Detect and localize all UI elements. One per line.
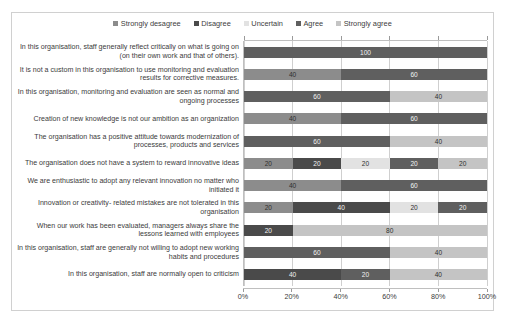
bar-segment[interactable]: 100 — [244, 47, 487, 58]
axis-tick-label: 80% — [431, 292, 445, 301]
plot-wrapper: In this organisation, staff generally re… — [12, 39, 493, 310]
bar-track: 4060 — [244, 113, 487, 124]
category-label: The organisation does not have a system … — [14, 152, 242, 174]
legend-swatch-agree — [296, 21, 301, 26]
legend-label-agree: Agree — [303, 19, 323, 28]
axis-tick-top — [292, 36, 293, 40]
axis-tick-label: 20% — [285, 292, 299, 301]
legend-swatch-strongly-agree — [336, 21, 341, 26]
category-label: In this organisation, monitoring and eva… — [14, 86, 242, 108]
bar-track: 20402020 — [244, 202, 487, 213]
bar-segment[interactable]: 40 — [390, 269, 487, 280]
bar-row: 100 — [244, 41, 487, 63]
bar-segment[interactable]: 60 — [341, 113, 487, 124]
bar-row: 4060 — [244, 63, 487, 85]
bar-track: 100 — [244, 47, 487, 58]
plot-area: 1004060604040606040202020202040602040202… — [243, 41, 487, 286]
bar-track: 4060 — [244, 69, 487, 80]
chart-container: Strongly desagree Disagree Uncertain Agr… — [11, 12, 494, 311]
bar-segment[interactable]: 40 — [390, 91, 487, 102]
chart-legend: Strongly desagree Disagree Uncertain Agr… — [12, 19, 493, 28]
legend-item-strongly-agree[interactable]: Strongly agree — [336, 19, 392, 28]
bar-track: 2020202020 — [244, 158, 487, 169]
axis-tick-top — [487, 36, 488, 40]
axis-tick-top — [389, 36, 390, 40]
bar-segment[interactable]: 60 — [244, 136, 390, 147]
category-axis: In this organisation, staff generally re… — [14, 41, 242, 286]
bar-segment[interactable]: 40 — [244, 113, 341, 124]
legend-swatch-strongly-desagree — [113, 21, 118, 26]
bar-row: 2080 — [244, 219, 487, 241]
bar-row: 4060 — [244, 175, 487, 197]
axis-tick-label: 40% — [333, 292, 347, 301]
bar-segment[interactable]: 20 — [438, 158, 487, 169]
bar-row: 6040 — [244, 86, 487, 108]
bar-row: 4060 — [244, 108, 487, 130]
category-label: In this organisation, staff are normally… — [14, 264, 242, 286]
bar-segment[interactable]: 20 — [244, 202, 293, 213]
bar-segment[interactable]: 20 — [341, 158, 390, 169]
legend-item-agree[interactable]: Agree — [296, 19, 323, 28]
bar-segment[interactable]: 20 — [390, 158, 439, 169]
bar-segment[interactable]: 60 — [341, 180, 487, 191]
bar-segment[interactable]: 40 — [390, 247, 487, 258]
bar-segment[interactable]: 40 — [244, 269, 341, 280]
legend-swatch-disagree — [194, 21, 199, 26]
bar-segment[interactable]: 20 — [341, 269, 390, 280]
bar-segment[interactable]: 60 — [341, 69, 487, 80]
category-label: It is not a custom in this organisation … — [14, 63, 242, 85]
bar-segment[interactable]: 40 — [293, 202, 390, 213]
bar-row: 402040 — [244, 264, 487, 286]
category-label: The organisation has a positive attitude… — [14, 130, 242, 152]
axis-tick-top — [341, 36, 342, 40]
bar-row: 2020202020 — [244, 152, 487, 174]
axis-tick-top — [244, 36, 245, 40]
bar-segment[interactable]: 20 — [438, 202, 487, 213]
category-label: When our work has been evaluated, manage… — [14, 219, 242, 241]
bar-segment[interactable]: 40 — [390, 136, 487, 147]
bar-segment[interactable]: 80 — [293, 225, 487, 236]
bar-track: 6040 — [244, 136, 487, 147]
bar-track: 6040 — [244, 91, 487, 102]
legend-label-strongly-desagree: Strongly desagree — [121, 19, 181, 28]
value-axis: 0%20%40%60%80%100% — [243, 288, 487, 304]
legend-label-disagree: Disagree — [201, 19, 231, 28]
axis-tick-label: 60% — [382, 292, 396, 301]
legend-item-uncertain[interactable]: Uncertain — [244, 19, 283, 28]
category-label: In this organisation, staff are generall… — [14, 241, 242, 263]
bar-row: 6040 — [244, 130, 487, 152]
axis-tick-label: 0% — [238, 292, 248, 301]
category-label: We are enthusiastic to adopt any relevan… — [14, 175, 242, 197]
bar-series-group: 1004060604040606040202020202040602040202… — [244, 41, 487, 286]
legend-item-disagree[interactable]: Disagree — [194, 19, 231, 28]
bar-track: 2080 — [244, 225, 487, 236]
category-label: Creation of new knowledge is not our amb… — [14, 108, 242, 130]
bar-segment[interactable]: 60 — [244, 247, 390, 258]
category-label: In this organisation, staff generally re… — [14, 41, 242, 63]
bar-track: 4060 — [244, 180, 487, 191]
bar-segment[interactable]: 20 — [390, 202, 439, 213]
legend-label-uncertain: Uncertain — [251, 19, 283, 28]
bar-segment[interactable]: 20 — [293, 158, 342, 169]
bar-segment[interactable]: 20 — [244, 158, 293, 169]
axis-tick-label: 100% — [478, 292, 496, 301]
category-label: Innovation or creativity- related mistak… — [14, 197, 242, 219]
bar-segment[interactable]: 60 — [244, 91, 390, 102]
axis-tick-top — [438, 36, 439, 40]
bar-track: 6040 — [244, 247, 487, 258]
legend-label-strongly-agree: Strongly agree — [344, 19, 392, 28]
value-axis-line — [243, 288, 487, 289]
bar-row: 6040 — [244, 241, 487, 263]
legend-item-strongly-desagree[interactable]: Strongly desagree — [113, 19, 180, 28]
bar-segment[interactable]: 40 — [244, 69, 341, 80]
legend-swatch-uncertain — [244, 21, 249, 26]
bar-segment[interactable]: 20 — [244, 225, 293, 236]
bar-segment[interactable]: 40 — [244, 180, 341, 191]
bar-track: 402040 — [244, 269, 487, 280]
bar-row: 20402020 — [244, 197, 487, 219]
